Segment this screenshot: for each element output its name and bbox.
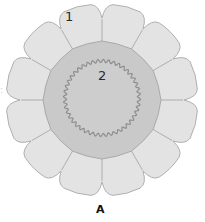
figure-caption: A bbox=[96, 204, 105, 215]
label-inner-region: 2 bbox=[98, 69, 106, 82]
label-outer-cells: 1 bbox=[65, 10, 73, 23]
cross-section-diagram bbox=[0, 0, 205, 222]
edge-mark: : bbox=[0, 86, 3, 95]
